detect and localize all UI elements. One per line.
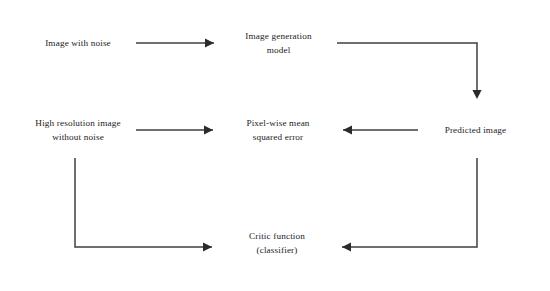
node-label: Predicted image — [441, 124, 511, 137]
edge-noise-to-generation-arrowhead-icon — [205, 38, 214, 47]
node-high-resolution-image: High resolution image without noise — [20, 103, 136, 158]
node-label: Image generation model — [241, 30, 315, 57]
edge-highres-to-critic-arrowhead-icon — [203, 242, 212, 251]
node-label: High resolution image without noise — [31, 117, 124, 144]
flowchart-diagram: Image with noise Image generation model … — [0, 0, 550, 291]
edge-predicted-to-critic-arrowhead-icon — [342, 242, 351, 251]
edge-generation-to-predicted-arrowhead-icon — [472, 90, 481, 99]
node-pixel-wise-mse: Pixel-wise mean squared error — [219, 103, 337, 158]
edge-predicted-to-critic — [342, 158, 477, 247]
node-image-generation-model: Image generation model — [220, 16, 337, 71]
node-critic-function: Critic function (classifier) — [218, 215, 336, 272]
node-predicted-image: Predicted image — [418, 103, 533, 158]
edge-predicted-to-mse-arrowhead-icon — [343, 125, 352, 134]
node-label: Image with noise — [41, 37, 115, 50]
edge-highres-to-mse-arrowhead-icon — [204, 125, 213, 134]
node-label: Critic function (classifier) — [245, 230, 309, 257]
edge-generation-to-predicted — [337, 43, 477, 97]
node-label: Pixel-wise mean squared error — [242, 117, 313, 144]
edge-highres-to-critic — [75, 158, 212, 247]
node-image-with-noise: Image with noise — [20, 16, 136, 71]
